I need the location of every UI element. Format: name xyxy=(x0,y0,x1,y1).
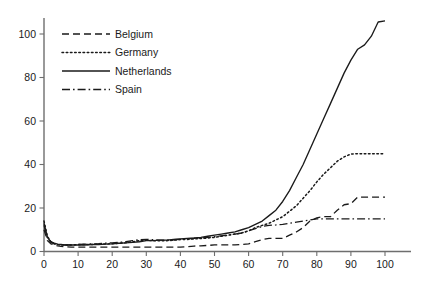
y-tick-label: 60 xyxy=(24,115,36,127)
legend-label-belgium: Belgium xyxy=(115,28,153,40)
legend-label-spain: Spain xyxy=(115,83,142,95)
x-tick-label: 40 xyxy=(175,258,187,270)
x-tick-label: 20 xyxy=(106,258,118,270)
series-lines xyxy=(44,21,385,247)
x-tick-label: 60 xyxy=(243,258,255,270)
line-chart: 020406080100 0102030405060708090100 Belg… xyxy=(0,0,424,281)
y-tick-label: 40 xyxy=(24,158,36,170)
x-tick-label: 30 xyxy=(140,258,152,270)
y-tick-label: 80 xyxy=(24,71,36,83)
series-line-spain xyxy=(44,219,385,245)
y-tick-label: 0 xyxy=(30,245,36,257)
x-tick-label: 50 xyxy=(209,258,221,270)
legend-label-germany: Germany xyxy=(115,46,159,58)
series-line-netherlands xyxy=(44,21,385,245)
x-axis: 0102030405060708090100 xyxy=(41,252,411,271)
x-tick-label: 90 xyxy=(345,258,357,270)
y-tick-label: 100 xyxy=(18,28,36,40)
chart-figure: 020406080100 0102030405060708090100 Belg… xyxy=(0,0,424,281)
x-tick-label: 0 xyxy=(41,258,47,270)
x-tick-label: 100 xyxy=(376,258,394,270)
chart-legend: BelgiumGermanyNetherlandsSpain xyxy=(62,28,172,96)
series-line-belgium xyxy=(44,197,385,247)
x-tick-label: 70 xyxy=(277,258,289,270)
y-tick-label: 20 xyxy=(24,202,36,214)
legend-label-netherlands: Netherlands xyxy=(115,65,172,77)
x-tick-label: 80 xyxy=(311,258,323,270)
series-line-germany xyxy=(44,154,385,245)
x-tick-label: 10 xyxy=(72,258,84,270)
y-axis: 020406080100 xyxy=(18,18,44,257)
